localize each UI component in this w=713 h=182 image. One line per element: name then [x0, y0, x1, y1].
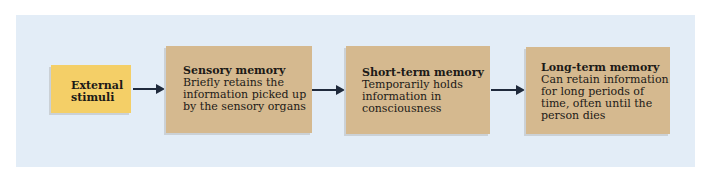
- sensory-memory-desc-line: by the sensory organs: [183, 101, 312, 113]
- short-term-memory-desc-line: consciousness: [362, 103, 490, 115]
- arrow-shaft: [133, 88, 157, 90]
- arrow-short-term-to-long-term: [491, 85, 525, 95]
- stimuli-label-line-2: stimuli: [71, 92, 131, 104]
- arrowhead-icon: [336, 85, 345, 95]
- short-term-memory-box: Short-term memory Temporarily holds info…: [346, 46, 490, 134]
- arrow-shaft: [312, 89, 337, 91]
- arrowhead-icon: [156, 84, 165, 94]
- long-term-memory-desc-line: person dies: [541, 110, 670, 122]
- external-stimuli-box: External stimuli: [51, 65, 131, 113]
- sensory-memory-box: Sensory memory Briefly retains the infor…: [166, 46, 312, 133]
- arrow-stimuli-to-sensory: [133, 84, 165, 94]
- arrow-shaft: [491, 89, 517, 91]
- long-term-memory-box: Long-term memory Can retain information …: [526, 47, 670, 134]
- arrowhead-icon: [516, 85, 525, 95]
- arrow-sensory-to-short-term: [312, 85, 345, 95]
